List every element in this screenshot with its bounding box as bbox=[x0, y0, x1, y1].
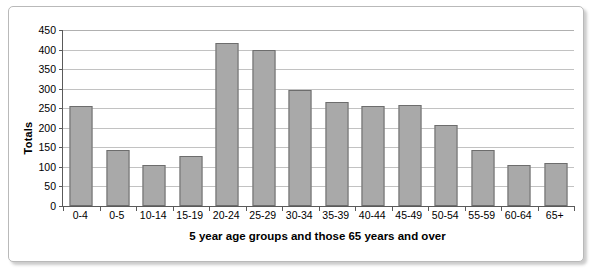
y-tick-label: 50 bbox=[44, 181, 63, 192]
x-tick-label: 0-5 bbox=[109, 210, 124, 221]
chart-figure: Totals 050100150200250300350400450 0-40-… bbox=[0, 0, 596, 276]
bar-slot bbox=[465, 30, 502, 206]
bar bbox=[362, 106, 385, 206]
bar-series bbox=[63, 30, 574, 206]
bar-slot bbox=[246, 30, 283, 206]
y-tick-label: 250 bbox=[38, 103, 63, 114]
x-tick-label: 15-19 bbox=[176, 210, 203, 221]
y-tick-label: 200 bbox=[38, 123, 63, 134]
bar bbox=[70, 106, 93, 206]
bar bbox=[544, 163, 567, 206]
bar-slot bbox=[63, 30, 100, 206]
x-tick-label: 25-29 bbox=[249, 210, 276, 221]
bar-slot bbox=[173, 30, 210, 206]
x-axis-title: 5 year age groups and those 65 years and… bbox=[62, 230, 573, 242]
bar bbox=[106, 150, 129, 206]
bar bbox=[471, 150, 494, 206]
bar bbox=[508, 165, 531, 206]
bar-slot bbox=[136, 30, 173, 206]
bar bbox=[143, 165, 166, 206]
x-tick-label: 50-54 bbox=[432, 210, 459, 221]
bar-slot bbox=[100, 30, 137, 206]
x-axis-tick-labels: 0-40-510-1415-1920-2425-2930-3435-3940-4… bbox=[62, 210, 573, 226]
bar bbox=[179, 156, 202, 206]
bar bbox=[216, 43, 239, 206]
x-tick-label: 30-34 bbox=[286, 210, 313, 221]
y-tick-label: 150 bbox=[38, 142, 63, 153]
plot-area: 050100150200250300350400450 bbox=[62, 30, 574, 207]
bar-slot bbox=[355, 30, 392, 206]
bar bbox=[398, 105, 421, 206]
x-tick-mark bbox=[574, 206, 575, 211]
x-tick-label: 55-59 bbox=[468, 210, 495, 221]
x-tick-label: 45-49 bbox=[395, 210, 422, 221]
y-tick-label: 400 bbox=[38, 44, 63, 55]
y-tick-label: 300 bbox=[38, 83, 63, 94]
x-tick-label: 20-24 bbox=[213, 210, 240, 221]
y-axis-title: Totals bbox=[22, 122, 34, 155]
y-tick-label: 350 bbox=[38, 64, 63, 75]
bar-slot bbox=[282, 30, 319, 206]
bar-slot bbox=[538, 30, 575, 206]
x-tick-label: 10-14 bbox=[140, 210, 167, 221]
x-tick-label: 65+ bbox=[546, 210, 564, 221]
bar-slot bbox=[501, 30, 538, 206]
y-tick-label: 100 bbox=[38, 162, 63, 173]
bar bbox=[435, 125, 458, 206]
bar-slot bbox=[428, 30, 465, 206]
x-tick-label: 35-39 bbox=[322, 210, 349, 221]
x-tick-label: 60-64 bbox=[505, 210, 532, 221]
bar-slot bbox=[319, 30, 356, 206]
x-tick-label: 40-44 bbox=[359, 210, 386, 221]
bar bbox=[325, 102, 348, 206]
y-tick-label: 450 bbox=[38, 25, 63, 36]
bar-slot bbox=[392, 30, 429, 206]
x-tick-label: 0-4 bbox=[73, 210, 88, 221]
bar-slot bbox=[209, 30, 246, 206]
bar bbox=[252, 50, 275, 206]
bar bbox=[289, 90, 312, 206]
